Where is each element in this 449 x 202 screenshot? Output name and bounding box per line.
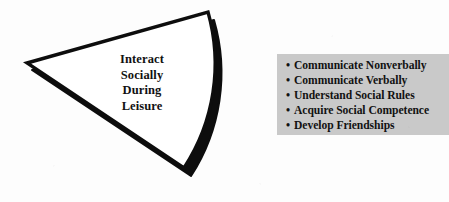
wedge-label-line-1: Interact	[96, 52, 188, 68]
list-item: • Acquire Social Competence	[286, 103, 449, 118]
wedge-label-line-4: Leisure	[96, 99, 188, 115]
figure-root: Interact Socially During Leisure • Commu…	[0, 0, 449, 202]
outcome-label: Acquire Social Competence	[294, 103, 429, 118]
outcome-label: Develop Friendships	[294, 118, 395, 133]
list-item: • Communicate Verbally	[286, 73, 449, 88]
bullet-icon: •	[286, 73, 294, 88]
outcomes-panel: • Communicate Nonverbally • Communicate …	[277, 54, 449, 135]
bullet-icon: •	[286, 103, 294, 118]
bullet-icon: •	[286, 58, 294, 73]
outcome-label: Communicate Verbally	[294, 73, 407, 88]
outcome-label: Communicate Nonverbally	[294, 58, 427, 73]
wedge-label-line-3: During	[96, 83, 188, 99]
bullet-icon: •	[286, 88, 294, 103]
outcomes-list: • Communicate Nonverbally • Communicate …	[286, 58, 449, 133]
wedge-diagram: Interact Socially During Leisure	[0, 0, 240, 202]
list-item: • Communicate Nonverbally	[286, 58, 449, 73]
wedge-label-line-2: Socially	[96, 68, 188, 84]
list-item: • Understand Social Rules	[286, 88, 449, 103]
wedge-label: Interact Socially During Leisure	[96, 52, 188, 114]
outcome-label: Understand Social Rules	[294, 88, 415, 103]
list-item: • Develop Friendships	[286, 118, 449, 133]
bullet-icon: •	[286, 118, 294, 133]
